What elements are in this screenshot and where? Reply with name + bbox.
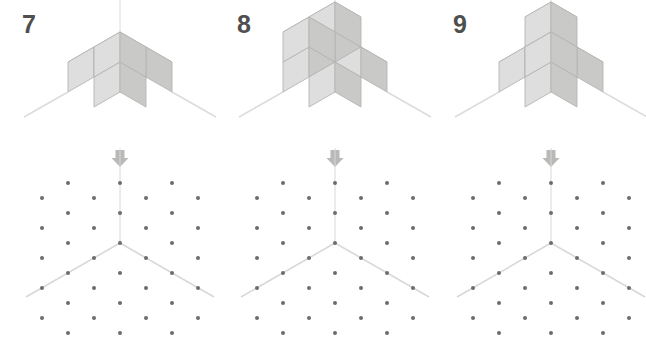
grid-dot (170, 301, 174, 305)
grid-dot (281, 301, 285, 305)
grid-dot (118, 331, 122, 335)
grid-right-axis (120, 243, 214, 297)
cube-figure-svg (431, 0, 646, 148)
grid-dot (497, 301, 501, 305)
cube-right-face (146, 47, 172, 92)
grid-dot (601, 181, 605, 185)
isometric-dot-grid[interactable] (215, 178, 430, 348)
grid-dot (307, 256, 311, 260)
grid-dot (307, 196, 311, 200)
cube-figure (431, 0, 646, 148)
cube-left-face (68, 47, 94, 92)
grid-dot (523, 286, 527, 290)
down-arrow (431, 142, 646, 176)
grid-dot (170, 331, 174, 335)
grid-dot (575, 286, 579, 290)
grid-dot (497, 211, 501, 215)
grid-dot (118, 241, 122, 245)
grid-dot (144, 196, 148, 200)
isometric-dot-grid-svg[interactable] (0, 178, 215, 348)
grid-dot (471, 196, 475, 200)
left-axis-line (24, 92, 68, 117)
grid-dot (92, 316, 96, 320)
isometric-dot-grid-svg[interactable] (215, 178, 430, 348)
left-axis-line (239, 92, 283, 117)
grid-dot (144, 226, 148, 230)
grid-dot (385, 331, 389, 335)
down-arrow (0, 142, 215, 176)
grid-dot (601, 301, 605, 305)
grid-dot (281, 211, 285, 215)
grid-dot (281, 271, 285, 275)
grid-dot (66, 181, 70, 185)
isometric-dot-grid[interactable] (0, 178, 215, 348)
grid-dot (333, 301, 337, 305)
grid-dot (549, 211, 553, 215)
isometric-dot-grid-svg[interactable] (431, 178, 646, 348)
grid-dot (281, 181, 285, 185)
cube-figure-svg (215, 0, 430, 148)
exercise-panel: 8 (215, 0, 430, 348)
grid-dot (92, 286, 96, 290)
grid-dot (601, 211, 605, 215)
grid-dot (497, 271, 501, 275)
isometric-dot-grid[interactable] (431, 178, 646, 348)
grid-dot (575, 256, 579, 260)
grid-dot (333, 211, 337, 215)
grid-dot (92, 226, 96, 230)
right-axis-line (172, 92, 216, 117)
grid-dot (307, 226, 311, 230)
grid-dot (471, 316, 475, 320)
cube-figure (215, 0, 430, 148)
grid-left-axis (241, 243, 335, 297)
left-axis-line (455, 92, 499, 117)
grid-dot (40, 316, 44, 320)
grid-dot (196, 316, 200, 320)
grid-dot (170, 271, 174, 275)
grid-left-axis (457, 243, 551, 297)
grid-dot (575, 226, 579, 230)
grid-dot (92, 196, 96, 200)
grid-dot (307, 286, 311, 290)
grid-dot (196, 196, 200, 200)
grid-dot (497, 241, 501, 245)
grid-dot (40, 226, 44, 230)
grid-dot (92, 256, 96, 260)
grid-dot (196, 256, 200, 260)
grid-dot (627, 286, 631, 290)
grid-dot (385, 301, 389, 305)
grid-dot (281, 331, 285, 335)
grid-dot (333, 271, 337, 275)
grid-dot (281, 241, 285, 245)
grid-dot (523, 316, 527, 320)
grid-dot (627, 256, 631, 260)
cube-right-face (361, 47, 387, 92)
cube-figure-svg (0, 0, 215, 148)
grid-dot (549, 331, 553, 335)
grid-dot (196, 286, 200, 290)
grid-dot (411, 316, 415, 320)
grid-dot (575, 196, 579, 200)
grid-dot (118, 181, 122, 185)
down-arrow (215, 142, 430, 176)
grid-dot (549, 301, 553, 305)
grid-dot (627, 226, 631, 230)
grid-dot (549, 271, 553, 275)
grid-dot (411, 226, 415, 230)
grid-dot (601, 241, 605, 245)
exercise-panel: 7 (0, 0, 215, 348)
grid-dot (170, 241, 174, 245)
grid-dot (523, 196, 527, 200)
grid-dot (333, 181, 337, 185)
grid-dot (40, 256, 44, 260)
grid-left-axis (26, 243, 120, 297)
grid-dot (144, 286, 148, 290)
grid-dot (359, 226, 363, 230)
grid-dot (627, 316, 631, 320)
grid-dot (40, 286, 44, 290)
grid-dot (66, 211, 70, 215)
grid-dot (627, 196, 631, 200)
grid-dot (333, 241, 337, 245)
grid-dot (255, 256, 259, 260)
grid-right-axis (335, 243, 429, 297)
